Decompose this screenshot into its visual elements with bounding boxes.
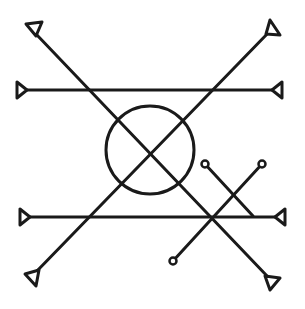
- symbol-diagram: [0, 0, 305, 309]
- dot-b-bottom-icon: [170, 258, 177, 265]
- dot-a-top-icon: [202, 161, 209, 168]
- dot-b-top-icon: [259, 161, 266, 168]
